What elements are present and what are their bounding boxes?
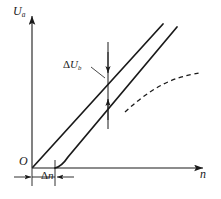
voltage-gap-subscript: b xyxy=(78,64,81,71)
x-axis-symbol: n xyxy=(200,167,206,181)
y-axis-subscript: a xyxy=(22,10,26,19)
speed-offset-label: Δn xyxy=(41,170,54,181)
series-ideal-line xyxy=(33,24,163,167)
y-axis-label: Ua xyxy=(13,5,25,17)
x-axis-label: n xyxy=(200,168,206,180)
voltage-gap-symbol: U xyxy=(70,58,78,70)
series-saturation-curve xyxy=(125,73,199,112)
voltage-gap-leader xyxy=(91,67,105,78)
voltage-gap-label: ΔUb xyxy=(63,59,81,70)
plot-canvas xyxy=(0,0,221,199)
origin-label: O xyxy=(19,155,28,167)
motor-characteristic-figure: Ua n O ΔUb Δn xyxy=(0,0,221,199)
speed-offset-symbol: n xyxy=(48,169,54,181)
y-axis-symbol: U xyxy=(13,4,22,18)
series-actual-line xyxy=(55,27,177,168)
